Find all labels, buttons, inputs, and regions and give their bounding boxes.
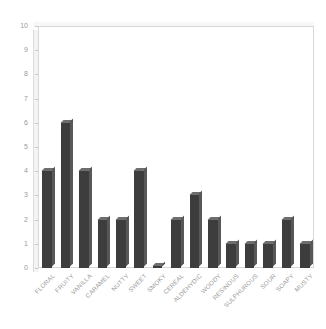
bar-side-face: [126, 215, 129, 266]
y-axis-tick-mark: [35, 99, 38, 100]
y-axis-tick-mark: [35, 26, 38, 27]
bar-side-face: [52, 167, 55, 267]
bar-slot: [222, 26, 240, 268]
bar: [116, 220, 126, 268]
bar-side-face: [273, 239, 276, 266]
x-axis-tick-label: MUSTY: [293, 272, 314, 293]
bar-side-face: [144, 167, 147, 267]
y-axis-tick-label: 10: [20, 22, 28, 30]
bar: [42, 171, 52, 268]
y-axis-tick-mark: [35, 220, 38, 221]
bar: [79, 171, 89, 268]
bar-side-face: [310, 239, 313, 266]
bar-slot: [93, 26, 111, 268]
bar-slot: [56, 26, 74, 268]
y-axis-tick-label: 7: [24, 95, 28, 103]
bar-slot: [130, 26, 148, 268]
bar: [134, 171, 144, 268]
bar-slot: [75, 26, 93, 268]
bar-side-face: [162, 261, 165, 266]
x-axis-tick-label: FLORAL: [33, 272, 56, 295]
x-axis-tick-label: SOAPY: [275, 272, 296, 293]
y-axis-tick-label: 1: [24, 240, 28, 248]
y-axis-tick-mark: [35, 195, 38, 196]
y-axis-tick-label: 6: [24, 119, 28, 127]
y-axis-tick-mark: [35, 147, 38, 148]
y-axis-tick-label: 5: [24, 143, 28, 151]
bar-side-face: [218, 215, 221, 266]
bar-slot: [277, 26, 295, 268]
bar-side-face: [70, 118, 73, 266]
bar: [153, 266, 163, 268]
y-axis-tick-mark: [35, 74, 38, 75]
y-axis-tick-label: 8: [24, 70, 28, 78]
y-axis-tick-mark: [35, 244, 38, 245]
bar: [98, 220, 108, 268]
bar: [282, 220, 292, 268]
y-axis-tick-mark: [35, 171, 38, 172]
bar-chart: 012345678910 FLORALFRUITYVANILLACARAMELN…: [0, 0, 326, 329]
y-axis-tick-mark: [35, 50, 38, 51]
y-axis-tick-label: 0: [24, 264, 28, 272]
y-axis: 012345678910: [0, 18, 36, 276]
x-axis-tick-label: SULPHUROUS: [222, 272, 259, 309]
bar-side-face: [291, 215, 294, 266]
y-axis-tick-label: 2: [24, 216, 28, 224]
bar: [171, 220, 181, 268]
x-axis-labels: FLORALFRUITYVANILLACARAMELNUTTYSWEETSMOK…: [38, 270, 314, 329]
bar-side-face: [236, 239, 239, 266]
bar-side-face: [107, 215, 110, 266]
y-axis-tick-mark: [35, 123, 38, 124]
bar: [208, 220, 218, 268]
bar-slot: [148, 26, 166, 268]
bar-slot: [240, 26, 258, 268]
bar: [263, 244, 273, 268]
bar-slot: [259, 26, 277, 268]
bar-side-face: [89, 167, 92, 267]
bar-slot: [112, 26, 130, 268]
y-axis-tick-mark: [35, 268, 38, 269]
bar: [245, 244, 255, 268]
y-axis-tick-label: 9: [24, 46, 28, 54]
bar: [190, 195, 200, 268]
bar-side-face: [254, 239, 257, 266]
bar-side-face: [199, 191, 202, 267]
bar: [61, 123, 71, 268]
bar: [226, 244, 236, 268]
bar-side-face: [181, 215, 184, 266]
bar-series: [38, 26, 314, 268]
y-axis-tick-label: 4: [24, 167, 28, 175]
bar-slot: [167, 26, 185, 268]
bar: [300, 244, 310, 268]
bar-slot: [38, 26, 56, 268]
y-axis-tick-label: 3: [24, 191, 28, 199]
bar-slot: [296, 26, 314, 268]
bar-slot: [185, 26, 203, 268]
x-axis-tick-label: SWEET: [127, 272, 148, 293]
bar-slot: [204, 26, 222, 268]
